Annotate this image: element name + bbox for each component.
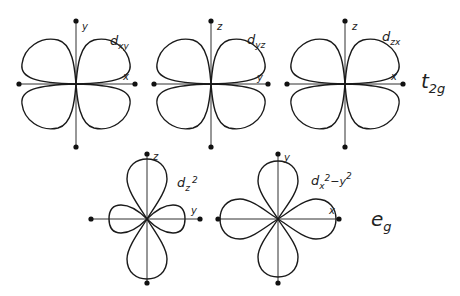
y-axis-label: y xyxy=(283,152,291,163)
axis-end-dot xyxy=(275,151,280,156)
z-axis-label: z xyxy=(351,21,358,32)
z-axis-label: z xyxy=(216,21,223,32)
axis-end-dot xyxy=(284,81,289,86)
y-axis-label: y xyxy=(256,72,264,83)
axis-end-dot xyxy=(336,216,341,221)
x-axis-label: x xyxy=(122,71,129,82)
y-axis-label: y xyxy=(81,21,89,32)
axis-end-dot xyxy=(88,216,93,221)
axis-end-dot xyxy=(73,18,78,23)
axis-end-dot xyxy=(342,18,347,23)
x-axis-label: x xyxy=(390,71,397,82)
axis-end-dot xyxy=(400,81,405,86)
axis-end-dot xyxy=(342,144,347,149)
axis-end-dot xyxy=(73,144,78,149)
axis-end-dot xyxy=(265,81,270,86)
axis-end-dot xyxy=(144,151,149,156)
orbital-dyz: z y dyz xyxy=(151,18,270,149)
group-label-eg: eg xyxy=(371,207,392,234)
axis-end-dot xyxy=(16,81,21,86)
orbital-dx2-y2: y x dx2−y2 xyxy=(215,151,352,285)
orbital-dzx: z x dzx xyxy=(284,18,405,149)
axis-end-dot xyxy=(208,144,213,149)
group-label-t2g: t2g xyxy=(421,69,445,96)
axis-end-dot xyxy=(197,216,202,221)
x-axis-label: x xyxy=(328,205,335,216)
axis-end-dot xyxy=(132,81,137,86)
orbital-label-dz2: dz2 xyxy=(177,175,198,193)
orbital-label-dx2-y2: dx2−y2 xyxy=(311,171,352,191)
axis-end-dot xyxy=(208,18,213,23)
orbital-dz2: z y dz2 xyxy=(88,151,202,286)
orbital-label-dxy: dxy xyxy=(110,33,130,51)
axis-end-dot xyxy=(151,81,156,86)
axis-end-dot xyxy=(275,280,280,285)
orbital-diagram: y x dxy z y dyz xyxy=(0,0,460,296)
orbital-dxy: y x dxy xyxy=(16,18,137,149)
y-axis-label: y xyxy=(190,205,198,216)
orbital-label-dyz: dyz xyxy=(247,32,266,50)
orbital-label-dzx: dzx xyxy=(382,29,401,47)
axis-end-dot xyxy=(144,280,149,285)
z-axis-label: z xyxy=(152,151,159,162)
